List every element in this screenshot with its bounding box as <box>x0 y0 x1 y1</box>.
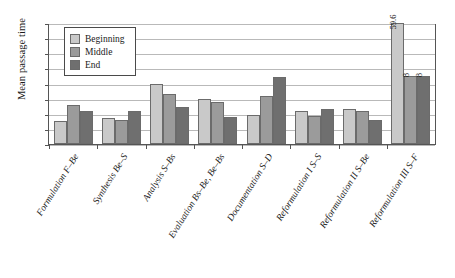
x-tick-mark <box>387 144 388 149</box>
bar[interactable] <box>102 118 115 144</box>
bar[interactable] <box>369 120 382 144</box>
x-tick-mark <box>242 144 243 149</box>
x-label-cell: Formulation F–Be <box>48 150 97 275</box>
legend-item-beginning: Beginning <box>70 32 130 45</box>
bar[interactable] <box>247 115 260 144</box>
bar-value-label: 59.6 <box>388 15 398 30</box>
bar[interactable] <box>224 117 237 144</box>
bar[interactable] <box>273 77 286 144</box>
bar[interactable] <box>308 116 321 144</box>
x-axis-label: Synthesis Be–S <box>90 152 129 206</box>
legend-label: Beginning <box>85 34 125 44</box>
x-tick-mark <box>339 144 340 149</box>
bar[interactable] <box>260 96 273 144</box>
bar[interactable]: 8 <box>417 76 430 144</box>
legend-item-middle: Middle <box>70 45 130 58</box>
x-tick-mark <box>49 144 50 149</box>
bar[interactable] <box>321 109 334 144</box>
y-axis-title: Mean passage time <box>16 9 30 109</box>
legend-label: Middle <box>85 47 112 57</box>
legend-swatch-icon <box>70 47 80 57</box>
bar[interactable] <box>356 111 369 144</box>
x-axis-label: Formulation F–Be <box>35 152 81 217</box>
x-axis-label: Analysis S–Bs <box>141 152 178 203</box>
bar[interactable] <box>128 111 141 144</box>
bar[interactable] <box>115 120 128 144</box>
x-tick-mark <box>290 144 291 149</box>
legend-item-end: End <box>70 58 130 71</box>
bar[interactable]: 59.6 <box>391 23 404 144</box>
bar[interactable] <box>176 107 189 144</box>
bar-value-label: 8 <box>401 73 411 77</box>
bar[interactable] <box>80 111 93 144</box>
bar-value-label: 8 <box>414 73 424 77</box>
x-tick-mark <box>194 144 195 149</box>
x-label-cell: Synthesis Be–S <box>97 150 146 275</box>
x-label-cell: Reformulation III S–F <box>388 150 437 275</box>
bar[interactable]: 8 <box>404 76 417 144</box>
bar[interactable] <box>150 84 163 145</box>
bar[interactable] <box>295 111 308 144</box>
bar-group <box>339 24 387 144</box>
bar-group: 59.688 <box>387 24 435 144</box>
bar[interactable] <box>198 99 211 144</box>
bar[interactable] <box>163 94 176 144</box>
bar-group <box>242 24 290 144</box>
x-tick-mark <box>97 144 98 149</box>
bar-group <box>194 24 242 144</box>
legend-label: End <box>85 60 100 70</box>
x-tick-mark <box>146 144 147 149</box>
bar-chart: Mean passage time -113579111315 59.688 B… <box>0 0 455 278</box>
bar-group <box>146 24 194 144</box>
legend-swatch-icon <box>70 34 80 44</box>
legend: Beginning Middle End <box>64 27 136 76</box>
x-axis-category-labels: Formulation F–BeSynthesis Be–SAnalysis S… <box>48 150 436 275</box>
legend-swatch-icon <box>70 60 80 70</box>
bar[interactable] <box>211 102 224 144</box>
bar[interactable] <box>343 109 356 144</box>
bar[interactable] <box>67 105 80 144</box>
bar[interactable] <box>54 121 67 144</box>
bar-group <box>290 24 338 144</box>
